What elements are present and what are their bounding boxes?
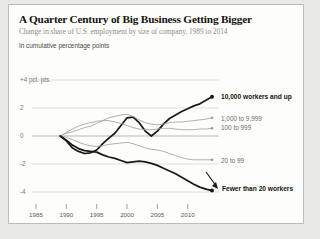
y-axis-tick-label: +4 pct. pts. [20,76,51,83]
series-label: 1,000 to 9,999 [221,115,262,122]
y-axis-tick-label: -2 [20,160,26,167]
series-label: 20 to 99 [221,157,244,164]
chart-card: A Quarter Century of Big Business Gettin… [8,4,304,224]
series-label: Fewer than 20 workers [222,185,293,192]
x-axis-tick-label: 2000 [113,211,141,218]
series-label: 100 to 999 [221,124,251,131]
x-axis-tick-label: 2005 [143,211,171,218]
x-axis-tick-label: 2010 [174,211,202,218]
y-axis-tick-label: 0 [20,132,24,139]
x-axis-ticks [36,204,188,209]
series-lines [60,97,212,191]
y-axis-tick-label: -4 [20,188,26,195]
x-axis-tick-label: 1995 [83,211,111,218]
x-axis-tick-label: 1985 [22,211,50,218]
series-callout-arrows [206,172,218,189]
y-axis-tick-label: 2 [20,104,24,111]
series-label: 10,000 workers and up [221,93,292,100]
x-axis-tick-label: 1990 [52,211,80,218]
